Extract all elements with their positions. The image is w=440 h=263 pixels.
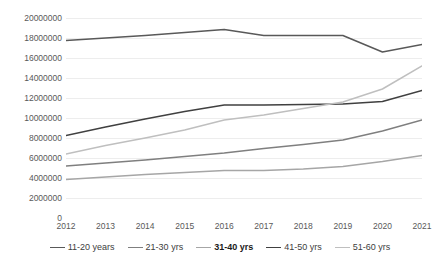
y-axis-tick-label: 4000000 [0, 174, 62, 183]
y-axis-tick-label: 18000000 [0, 34, 62, 43]
x-axis-tick-label: 2015 [175, 222, 194, 231]
x-axis-tick-label: 2017 [254, 222, 273, 231]
y-axis-tick-label: 8000000 [0, 134, 62, 143]
plot-area [66, 18, 422, 218]
legend-item[interactable]: 31-40 yrs [196, 243, 253, 252]
legend-item[interactable]: 41-50 yrs [266, 243, 322, 252]
legend-line-swatch [196, 247, 211, 248]
x-axis-tick-label: 2012 [57, 222, 76, 231]
x-axis-tick-label: 2014 [136, 222, 155, 231]
series-line [66, 156, 422, 180]
legend-line-swatch [50, 247, 65, 248]
legend-item[interactable]: 51-60 yrs [335, 243, 391, 252]
y-axis-tick-label: 6000000 [0, 154, 62, 163]
series-line [66, 30, 422, 53]
legend-label: 51-60 yrs [353, 243, 391, 252]
series-line [66, 66, 422, 154]
chart-legend: 11-20 years21-30 yrs31-40 yrs41-50 yrs51… [0, 238, 440, 256]
y-axis-tick-label: 10000000 [0, 114, 62, 123]
x-axis-tick-label: 2016 [215, 222, 234, 231]
y-axis-tick-label: 14000000 [0, 74, 62, 83]
y-axis-tick-label: 16000000 [0, 54, 62, 63]
legend-item[interactable]: 21-30 yrs [128, 243, 184, 252]
x-axis: 2012201320142015201620172018201920202021 [66, 222, 422, 236]
legend-label: 31-40 yrs [214, 243, 253, 252]
legend-item[interactable]: 11-20 years [50, 243, 115, 252]
x-axis-tick-label: 2021 [413, 222, 432, 231]
y-axis-tick-label: 2000000 [0, 194, 62, 203]
y-axis-tick-label: 20000000 [0, 14, 62, 23]
legend-line-swatch [335, 247, 350, 248]
y-axis-tick-label: 12000000 [0, 94, 62, 103]
legend-label: 41-50 yrs [284, 243, 322, 252]
legend-label: 21-30 yrs [146, 243, 184, 252]
x-axis-tick-label: 2013 [96, 222, 115, 231]
x-axis-tick-label: 2019 [333, 222, 352, 231]
legend-label: 11-20 years [68, 243, 115, 252]
x-axis-tick-label: 2018 [294, 222, 313, 231]
y-axis: 2000000018000000160000001400000012000000… [0, 0, 62, 230]
legend-line-swatch [266, 247, 281, 248]
legend-line-swatch [128, 247, 143, 248]
line-chart: 2000000018000000160000001400000012000000… [0, 0, 440, 263]
x-axis-tick-label: 2020 [373, 222, 392, 231]
series-line [66, 91, 422, 136]
plot-svg [66, 18, 422, 218]
y-axis-tick-label: 0 [0, 214, 62, 223]
